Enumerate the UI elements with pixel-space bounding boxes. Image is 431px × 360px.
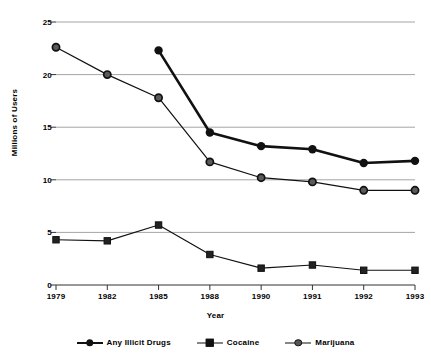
legend-swatch-circle-ring-icon: [285, 337, 311, 348]
legend-marker-circle-ring-icon: [295, 339, 303, 347]
legend-marker-square-solid-icon: [206, 338, 215, 347]
datapoint-cocaine-1993: [412, 267, 418, 273]
datapoint-marijuana-1990: [258, 174, 265, 181]
legend-label: Marijuana: [315, 338, 354, 347]
legend-marker-circle-solid-icon: [86, 339, 94, 347]
datapoint-marijuana-1992: [360, 187, 367, 194]
legend-label: Cocaine: [227, 338, 260, 347]
x-tick-label-1988: 1988: [201, 292, 220, 301]
x-tick-label-1990: 1990: [252, 292, 271, 301]
datapoint-any-illicit-drugs-1988: [206, 128, 214, 136]
datapoint-any-illicit-drugs-1990: [257, 142, 265, 150]
legend-label: Any Illicit Drugs: [107, 338, 171, 347]
series-line-marijuana: [56, 47, 415, 190]
legend-item-marijuana[interactable]: Marijuana: [285, 337, 354, 348]
legend-item-any-illicit-drugs[interactable]: Any Illicit Drugs: [77, 337, 171, 348]
legend-swatch-circle-solid-icon: [77, 337, 103, 348]
datapoint-marijuana-1988: [206, 158, 213, 165]
chart-legend: Any Illicit DrugsCocaineMarijuana: [0, 337, 431, 348]
y-axis-title: Millions of Users: [10, 83, 19, 163]
y-tick-label: 5: [26, 228, 52, 237]
datapoint-marijuana-1982: [104, 71, 111, 78]
x-tick-label-1979: 1979: [47, 292, 66, 301]
x-tick-label-1982: 1982: [98, 292, 117, 301]
legend-swatch-square-solid-icon: [197, 337, 223, 348]
datapoint-any-illicit-drugs-1991: [308, 145, 316, 153]
x-tick-label-1985: 1985: [149, 292, 168, 301]
y-tick-label: 10: [26, 175, 52, 184]
y-tick-label: 0: [26, 281, 52, 290]
datapoint-marijuana-1979: [52, 44, 59, 51]
series-line-cocaine: [56, 225, 415, 270]
datapoint-marijuana-1991: [309, 178, 316, 185]
drug-use-line-chart: Millions of Users Year 0510152025 197919…: [0, 0, 431, 360]
x-tick-label-1991: 1991: [303, 292, 322, 301]
datapoint-marijuana-1993: [411, 187, 418, 194]
datapoint-any-illicit-drugs-1993: [411, 157, 419, 165]
y-tick-label: 20: [26, 70, 52, 79]
datapoint-cocaine-1982: [104, 238, 110, 244]
datapoint-cocaine-1988: [207, 251, 213, 257]
datapoint-cocaine-1985: [155, 222, 161, 228]
datapoint-cocaine-1979: [53, 237, 59, 243]
x-axis-title: Year: [0, 311, 431, 320]
x-tick-label-1993: 1993: [406, 292, 425, 301]
y-tick-label: 15: [26, 123, 52, 132]
datapoint-any-illicit-drugs-1992: [360, 159, 368, 167]
y-tick-label: 25: [26, 18, 52, 27]
y-axis-ticks: 0510152025: [26, 0, 52, 360]
datapoint-cocaine-1992: [361, 267, 367, 273]
x-tick-label-1992: 1992: [354, 292, 373, 301]
datapoint-any-illicit-drugs-1985: [154, 46, 162, 54]
datapoint-cocaine-1991: [309, 262, 315, 268]
plot-area: [0, 0, 431, 360]
datapoint-marijuana-1985: [155, 94, 162, 101]
datapoint-cocaine-1990: [258, 265, 264, 271]
legend-item-cocaine[interactable]: Cocaine: [197, 337, 260, 348]
